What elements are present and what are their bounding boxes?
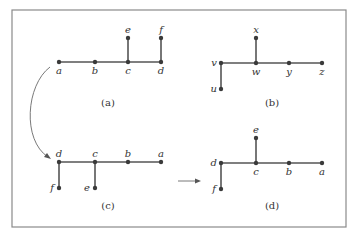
node-label-d: d bbox=[158, 65, 164, 76]
node-f bbox=[159, 36, 163, 40]
node-label-c: c bbox=[125, 65, 131, 76]
node-c bbox=[93, 160, 97, 164]
node-label-f: f bbox=[211, 183, 218, 194]
curved-arrow-a-to-c bbox=[30, 67, 50, 157]
node-label-c: c bbox=[253, 166, 259, 177]
panel-d: dcbaef bbox=[211, 124, 325, 194]
node-label-w: w bbox=[252, 66, 261, 77]
node-c bbox=[254, 161, 258, 165]
node-label-e: e bbox=[253, 124, 259, 135]
tree-diagram-figure: abcdefvwyzxudcbafedcbaef (a) (b) (c) (d) bbox=[0, 0, 354, 233]
node-b bbox=[126, 160, 130, 164]
node-a bbox=[57, 60, 61, 64]
node-label-a: a bbox=[319, 166, 325, 177]
node-label-z: z bbox=[318, 66, 325, 77]
node-label-a: a bbox=[158, 148, 164, 159]
node-label-b: b bbox=[125, 148, 131, 159]
node-label-v: v bbox=[211, 57, 217, 68]
node-d bbox=[219, 161, 223, 165]
node-label-a: a bbox=[56, 65, 62, 76]
caption-d: (d) bbox=[265, 200, 279, 211]
node-label-b: b bbox=[92, 65, 98, 76]
node-e bbox=[93, 186, 97, 190]
panel-a: abcdef bbox=[56, 24, 165, 76]
node-label-d: d bbox=[211, 157, 217, 168]
node-label-x: x bbox=[253, 24, 259, 35]
node-v bbox=[219, 61, 223, 65]
caption-a: (a) bbox=[101, 97, 115, 108]
node-z bbox=[320, 61, 324, 65]
node-a bbox=[159, 160, 163, 164]
node-e bbox=[126, 36, 130, 40]
node-label-b: b bbox=[286, 166, 292, 177]
node-d bbox=[159, 60, 163, 64]
node-u bbox=[219, 87, 223, 91]
node-c bbox=[126, 60, 130, 64]
node-label-c: c bbox=[92, 148, 98, 159]
node-w bbox=[254, 61, 258, 65]
node-y bbox=[287, 61, 291, 65]
node-x bbox=[254, 36, 258, 40]
node-f bbox=[57, 186, 61, 190]
node-label-f: f bbox=[158, 24, 165, 35]
node-e bbox=[254, 136, 258, 140]
curved-arrow-head bbox=[44, 153, 51, 159]
node-label-e: e bbox=[125, 24, 131, 35]
node-label-d: d bbox=[56, 148, 62, 159]
node-label-e: e bbox=[84, 182, 90, 193]
node-b bbox=[287, 161, 291, 165]
node-d bbox=[57, 160, 61, 164]
node-label-u: u bbox=[211, 83, 217, 94]
straight-arrow-head bbox=[195, 179, 201, 184]
node-f bbox=[219, 187, 223, 191]
caption-b: (b) bbox=[265, 97, 279, 108]
panels-group: abcdefvwyzxudcbafedcbaef bbox=[49, 24, 325, 194]
figure-frame bbox=[12, 10, 346, 227]
node-b bbox=[93, 60, 97, 64]
node-label-y: y bbox=[285, 66, 292, 77]
node-label-f: f bbox=[49, 182, 56, 193]
panel-c: dcbafe bbox=[49, 148, 164, 193]
node-a bbox=[320, 161, 324, 165]
caption-c: (c) bbox=[101, 200, 115, 211]
panel-b: vwyzxu bbox=[211, 24, 326, 94]
